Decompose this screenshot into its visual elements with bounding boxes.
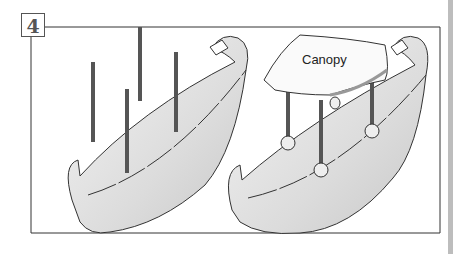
pole	[138, 27, 142, 101]
canopy-label: Canopy	[302, 52, 347, 67]
pole	[91, 62, 95, 142]
pole	[286, 90, 290, 140]
page-edge	[448, 0, 453, 254]
illustration	[0, 0, 453, 254]
pole	[319, 100, 323, 165]
left-boat	[68, 27, 248, 233]
pole	[174, 52, 178, 132]
step-number-badge: 4	[21, 13, 45, 37]
pole	[125, 89, 129, 173]
